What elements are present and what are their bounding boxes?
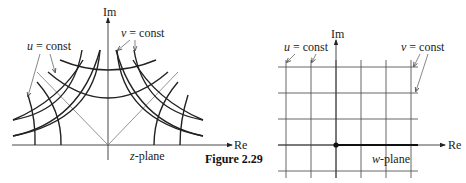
w-plane-diagram: Im Re u = const v = const w-plane — [278, 27, 461, 178]
w-v-rest: = const — [406, 40, 445, 54]
z-plane-diagram: Im Re u = const v = const z-plane — [12, 5, 247, 163]
figure-caption: Figure 2.29 — [205, 152, 263, 166]
z-u-rest: = const — [33, 39, 72, 53]
z-v-const-label: v = const — [121, 26, 165, 40]
z-re-label: Re — [234, 138, 247, 152]
z-im-label: Im — [103, 5, 117, 19]
z-u-curve-left-3 — [28, 95, 35, 145]
w-u-rest: = const — [290, 40, 329, 54]
figure-canvas: Im Re u = const v = const z-plane Figure… — [0, 0, 466, 183]
z-plane-label: z-plane — [129, 149, 165, 163]
z-u-pointer-1 — [28, 54, 40, 96]
w-v-pointer-1 — [414, 54, 420, 66]
z-v-pointer-1 — [118, 40, 130, 50]
w-im-label: Im — [331, 27, 345, 41]
w-origin-point — [333, 142, 338, 147]
w-u-pointer-2 — [312, 54, 316, 62]
z-u-pointer-2 — [50, 54, 55, 72]
w-u-pointer-1 — [287, 54, 295, 62]
w-v-const-label: v = const — [401, 40, 445, 54]
w-v-pointer-2 — [416, 54, 428, 91]
z-v-rest: = const — [126, 26, 165, 40]
z-u-const-label: u = const — [27, 39, 72, 53]
w-re-label: Re — [448, 138, 461, 152]
z-diagonal-left — [37, 72, 108, 145]
w-u-const-label: u = const — [284, 40, 329, 54]
z-u-curve-right-4 — [180, 95, 188, 145]
w-plane-label: w-plane — [372, 152, 410, 166]
